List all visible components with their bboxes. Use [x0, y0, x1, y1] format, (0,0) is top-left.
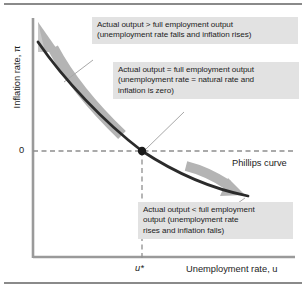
- x-axis-label-text: Unemployment rate, u: [186, 264, 277, 274]
- callout-above-line-2: (unemployment rate falls and inflation r…: [97, 30, 293, 40]
- phillips-curve-figure: Inflation rate, π Unemployment rate, u 0…: [0, 0, 306, 291]
- callout-equal-line-1: Actual output = full employment output: [118, 65, 294, 75]
- leader-line-equal: [146, 112, 184, 149]
- callout-equal-line-2: (unemployment rate = natural rate and: [118, 75, 294, 85]
- phillips-curve-label: Phillips curve: [232, 158, 287, 168]
- x-axis-tick-ustar: u*: [135, 263, 144, 273]
- callout-above-full-employment: Actual output > full employment output (…: [92, 17, 298, 44]
- callout-at-full-employment: Actual output = full employment output (…: [113, 62, 299, 99]
- callout-equal-line-3: inflation is zero): [118, 86, 294, 96]
- callout-below-line-3: rises and inflation falls): [143, 226, 288, 236]
- callout-below-full-employment: Actual output < full employment output (…: [138, 202, 293, 239]
- callout-below-line-1: Actual output < full employment: [143, 205, 288, 215]
- equilibrium-point-dot: [138, 147, 146, 155]
- y-axis-tick-zero: 0: [19, 145, 24, 155]
- y-axis-label: Inflation rate, π: [12, 22, 22, 132]
- x-axis-label: Unemployment rate, u: [186, 264, 277, 274]
- callout-below-line-2: output (unemployment rate: [143, 215, 288, 225]
- callout-above-line-1: Actual output > full employment output: [97, 20, 293, 30]
